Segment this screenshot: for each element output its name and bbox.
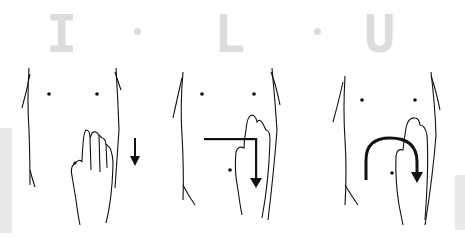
letter-u: U	[364, 8, 395, 60]
separator-dot	[314, 28, 321, 35]
letter-i: I	[46, 8, 77, 60]
panel-l-stroke	[150, 60, 310, 238]
letter-l: L	[214, 8, 245, 60]
abdomen-illustration	[0, 60, 160, 238]
panel-u-stroke	[305, 60, 465, 238]
abdomen-illustration	[305, 60, 465, 238]
separator-dot	[134, 28, 141, 35]
abdomen-illustration	[150, 60, 310, 238]
panel-i-stroke	[0, 60, 160, 238]
